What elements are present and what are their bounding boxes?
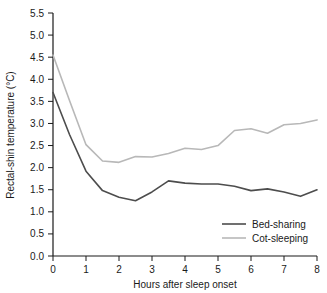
y-tick-label: 2.0 <box>30 162 44 173</box>
x-tick-label: 1 <box>83 264 89 275</box>
y-tick-label: 3.0 <box>30 118 44 129</box>
y-tick-label: 4.5 <box>30 52 44 63</box>
y-tick-label: 1.0 <box>30 206 44 217</box>
line-chart: 0.00.51.01.52.02.53.03.54.04.55.05.5 012… <box>0 0 327 293</box>
x-tick-label: 4 <box>182 264 188 275</box>
y-tick-label: 2.5 <box>30 140 44 151</box>
y-tick-label: 5.5 <box>30 8 44 19</box>
y-tick-label: 0.5 <box>30 228 44 239</box>
x-tick-label: 0 <box>50 264 56 275</box>
x-tick-group: 012345678 <box>50 256 320 275</box>
chart-figure: 0.00.51.01.52.02.53.03.54.04.55.05.5 012… <box>0 0 327 293</box>
x-tick-label: 7 <box>281 264 287 275</box>
chart-legend: Bed-sharingCot-sleeping <box>222 219 308 244</box>
series-line-bed-sharing <box>53 93 317 201</box>
y-axis: 0.00.51.01.52.02.53.03.54.04.55.05.5 <box>30 8 53 262</box>
y-tick-label: 1.5 <box>30 184 44 195</box>
legend-label-cot-sleeping: Cot-sleeping <box>252 233 308 244</box>
y-axis-title: Rectal-shin temperature (°C) <box>5 71 16 198</box>
y-tick-label: 4.0 <box>30 74 44 85</box>
y-tick-label: 3.5 <box>30 96 44 107</box>
x-axis: 012345678 <box>50 256 320 275</box>
x-tick-label: 5 <box>215 264 221 275</box>
legend-label-bed-sharing: Bed-sharing <box>252 219 306 230</box>
series-line-cot-sleeping <box>53 55 317 162</box>
x-tick-label: 6 <box>248 264 254 275</box>
x-tick-label: 3 <box>149 264 155 275</box>
x-tick-label: 2 <box>116 264 122 275</box>
series-group <box>53 55 317 201</box>
y-tick-label: 5.0 <box>30 30 44 41</box>
x-axis-title: Hours after sleep onset <box>133 279 237 290</box>
y-tick-group: 0.00.51.01.52.02.53.03.54.04.55.05.5 <box>30 8 53 262</box>
y-tick-label: 0.0 <box>30 251 44 262</box>
x-tick-label: 8 <box>314 264 320 275</box>
